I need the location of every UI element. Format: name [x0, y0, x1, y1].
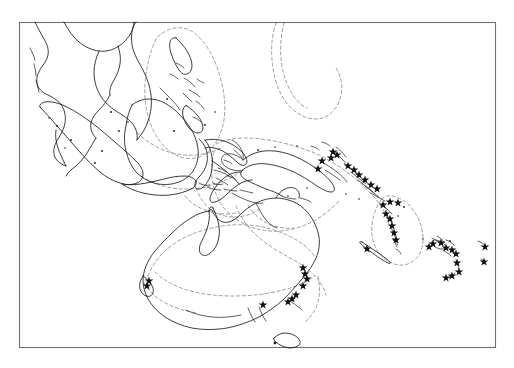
map-canvas [0, 0, 514, 368]
map-background [0, 0, 514, 368]
map-figure: Southeast Asia, Australia and the southw… [0, 0, 514, 368]
